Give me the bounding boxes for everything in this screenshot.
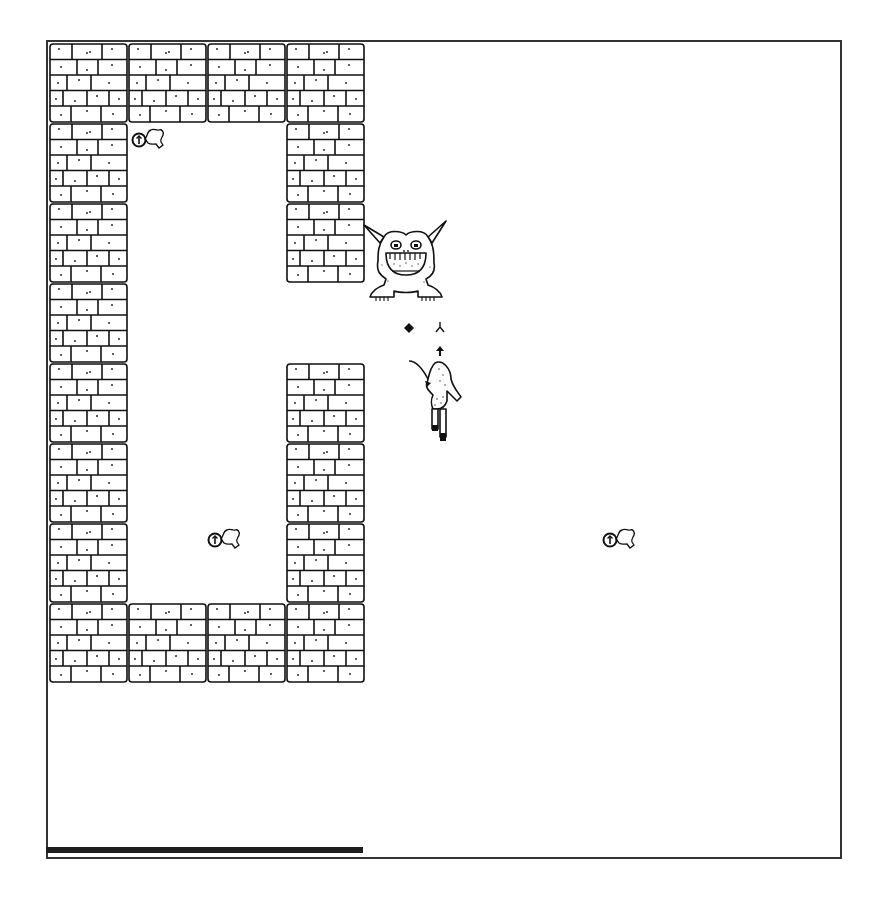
- brick-wall-tile: [49, 603, 128, 683]
- brick-wall-tile: [49, 443, 128, 523]
- health-bar: [46, 847, 363, 853]
- game-viewport[interactable]: [46, 40, 842, 859]
- brick-wall-tile: [286, 123, 365, 203]
- brick-wall-tile: [128, 603, 207, 683]
- brick-wall-tile: [207, 43, 286, 123]
- amulet-icon: [206, 525, 246, 553]
- brick-wall-tile: [286, 443, 365, 523]
- brick-wall-tile: [49, 363, 128, 443]
- brick-wall-tile: [49, 283, 128, 363]
- brick-wall-tile: [286, 523, 365, 603]
- monster-demon-icon: [362, 215, 448, 305]
- brick-wall-tile: [49, 43, 128, 123]
- brick-wall-tile: [207, 603, 286, 683]
- player-archer-icon: [405, 355, 465, 445]
- diamond-shot-icon: [404, 318, 414, 330]
- brick-wall-tile: [49, 123, 128, 203]
- brick-wall-tile: [49, 523, 128, 603]
- arrow-head-icon: [435, 342, 445, 354]
- amulet-icon: [130, 125, 170, 153]
- brick-wall-tile: [286, 603, 365, 683]
- amulet-icon: [601, 525, 641, 553]
- brick-wall-tile: [49, 203, 128, 283]
- brick-wall-tile: [286, 203, 365, 283]
- arrow-fletching-icon: [435, 318, 445, 330]
- brick-wall-tile: [286, 43, 365, 123]
- brick-wall-tile: [128, 43, 207, 123]
- brick-wall-tile: [286, 363, 365, 443]
